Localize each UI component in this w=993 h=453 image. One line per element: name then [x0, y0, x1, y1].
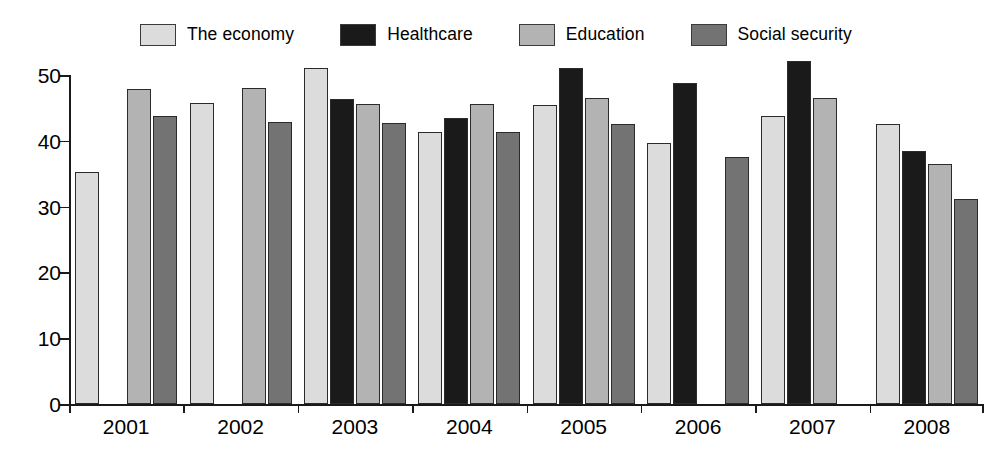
bar-2003-healthcare — [330, 99, 354, 404]
bar-2002-social-security — [268, 122, 292, 404]
x-tick-label-2005: 2005 — [527, 416, 641, 437]
bar-group-2008 — [870, 75, 984, 404]
bar-2007-education — [813, 98, 837, 404]
y-tick-label: 50 — [38, 65, 61, 86]
x-tick-mark — [870, 404, 872, 413]
legend-label: Healthcare — [387, 26, 473, 44]
bar-group-2003 — [298, 75, 412, 404]
legend-item-the-economy[interactable]: The economy — [140, 24, 294, 46]
bar-2004-social-security — [496, 132, 520, 404]
bar-2004-education — [470, 104, 494, 404]
x-tick-label-2002: 2002 — [183, 416, 297, 437]
bar-2001-social-security — [153, 116, 177, 404]
x-tick-mark — [412, 404, 414, 413]
legend-item-healthcare[interactable]: Healthcare — [340, 24, 473, 46]
bar-groups — [69, 75, 984, 404]
y-tick-mark — [60, 404, 69, 406]
legend-label: Social security — [738, 26, 852, 44]
x-tick-mark — [982, 404, 984, 413]
y-tick-mark — [60, 75, 69, 77]
bar-2003-education — [356, 104, 380, 404]
x-tick-mark — [298, 404, 300, 413]
bar-2005-education — [585, 98, 609, 404]
bar-2008-education — [928, 164, 952, 404]
y-tick-label: 0 — [49, 394, 61, 415]
legend-swatch-education — [519, 24, 555, 46]
bar-group-2004 — [412, 75, 526, 404]
legend-swatch-social-security — [691, 24, 727, 46]
y-tick-label: 30 — [38, 196, 61, 217]
bar-group-2006 — [641, 75, 755, 404]
x-tick-label-2001: 2001 — [69, 416, 183, 437]
y-tick-mark — [60, 141, 69, 143]
legend-swatch-healthcare — [340, 24, 376, 46]
bar-2008-social-security — [954, 199, 978, 404]
bar-2008-the-economy — [876, 124, 900, 404]
bar-2003-social-security — [382, 123, 406, 404]
x-tick-label-2006: 2006 — [641, 416, 755, 437]
bar-2005-healthcare — [559, 68, 583, 404]
x-tick-mark — [527, 404, 529, 413]
legend-label: Education — [566, 26, 645, 44]
bar-chart: The economyHealthcareEducationSocial sec… — [0, 0, 993, 453]
y-tick-label: 20 — [38, 262, 61, 283]
bar-group-2002 — [183, 75, 297, 404]
bar-2007-healthcare — [787, 61, 811, 404]
bar-2004-the-economy — [418, 132, 442, 404]
legend-item-social-security[interactable]: Social security — [691, 24, 852, 46]
bar-2006-social-security — [725, 157, 749, 404]
bar-2005-the-economy — [533, 105, 557, 404]
x-tick-mark — [641, 404, 643, 413]
bar-group-2001 — [69, 75, 183, 404]
bar-2002-the-economy — [190, 103, 214, 404]
y-tick-mark — [60, 338, 69, 340]
x-tick-mark — [69, 404, 71, 413]
x-tick-mark — [755, 404, 757, 413]
bar-2006-healthcare — [673, 83, 697, 404]
y-tick-label: 40 — [38, 130, 61, 151]
chart-legend: The economyHealthcareEducationSocial sec… — [140, 24, 898, 46]
bar-2001-the-economy — [75, 172, 99, 404]
bar-2002-education — [242, 88, 266, 404]
x-tick-label-2004: 2004 — [412, 416, 526, 437]
x-axis-labels: 20012002200320042005200620072008 — [69, 416, 984, 437]
legend-label: The economy — [187, 26, 294, 44]
legend-swatch-the-economy — [140, 24, 176, 46]
x-tick-label-2003: 2003 — [298, 416, 412, 437]
bar-2003-the-economy — [304, 68, 328, 404]
bar-2006-the-economy — [647, 143, 671, 404]
y-tick-label: 10 — [38, 328, 61, 349]
legend-item-education[interactable]: Education — [519, 24, 645, 46]
bar-group-2007 — [755, 75, 869, 404]
plot-area: 01020304050 2001200220032004200520062007… — [69, 75, 984, 404]
y-tick-mark — [60, 272, 69, 274]
bar-group-2005 — [527, 75, 641, 404]
y-tick-mark — [60, 207, 69, 209]
x-tick-mark — [183, 404, 185, 413]
bar-2005-social-security — [611, 124, 635, 404]
bar-2008-healthcare — [902, 151, 926, 404]
x-tick-label-2008: 2008 — [870, 416, 984, 437]
bar-2001-education — [127, 89, 151, 404]
bar-2004-healthcare — [444, 118, 468, 404]
x-tick-label-2007: 2007 — [755, 416, 869, 437]
bar-2007-the-economy — [761, 116, 785, 404]
